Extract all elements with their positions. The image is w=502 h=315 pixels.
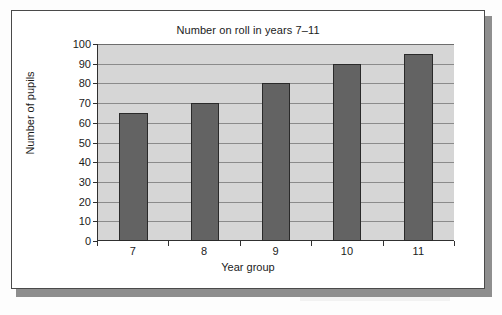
bar[interactable] — [262, 83, 290, 241]
y-tick-label: 20 — [79, 196, 91, 208]
y-tick-label: 70 — [79, 97, 91, 109]
x-tick-mark — [454, 241, 455, 246]
y-tick-mark — [93, 64, 97, 65]
x-tick-label: 10 — [341, 245, 353, 257]
bar-slot — [312, 44, 383, 241]
figure-frame: Number on roll in years 7–11 Number of p… — [11, 10, 485, 289]
y-tick-label: 30 — [79, 176, 91, 188]
plot-area — [97, 44, 454, 241]
y-tick-label: 10 — [79, 215, 91, 227]
y-tick-label: 50 — [79, 137, 91, 149]
y-tick-label: 100 — [73, 38, 91, 50]
x-tick-mark — [383, 241, 384, 246]
y-tick-mark — [93, 44, 97, 45]
y-tick-label: 40 — [79, 156, 91, 168]
y-axis-title: Number of pupils — [24, 53, 36, 173]
bar[interactable] — [404, 54, 432, 241]
y-tick-label: 0 — [85, 235, 91, 247]
y-tick-mark — [93, 182, 97, 183]
y-tick-label: 90 — [79, 58, 91, 70]
x-tick-label: 9 — [272, 245, 278, 257]
bar-slot — [169, 44, 240, 241]
chart-title: Number on roll in years 7–11 — [12, 24, 484, 36]
x-tick-mark — [97, 241, 98, 246]
x-tick-label: 7 — [130, 245, 136, 257]
x-tick-mark — [168, 241, 169, 246]
bar[interactable] — [333, 64, 361, 241]
y-tick-mark — [93, 123, 97, 124]
x-tick-label: 11 — [413, 245, 424, 257]
y-tick-mark — [93, 83, 97, 84]
bar-slot — [98, 44, 169, 241]
plot-wrapper: 0102030405060708090100 7891011 — [97, 44, 454, 275]
scanned-page: Number on roll in years 7–11 Number of p… — [0, 0, 502, 315]
y-tick-mark — [93, 103, 97, 104]
bar[interactable] — [119, 113, 147, 241]
x-tick-label: 8 — [201, 245, 207, 257]
x-tick-mark — [240, 241, 241, 246]
x-tick-mark — [311, 241, 312, 246]
y-tick-mark — [93, 162, 97, 163]
y-tick-mark — [93, 221, 97, 222]
bars-layer — [98, 44, 454, 241]
bar-slot — [383, 44, 454, 241]
bar[interactable] — [191, 103, 219, 241]
bar-slot — [240, 44, 311, 241]
y-tick-mark — [93, 202, 97, 203]
y-tick-label: 80 — [79, 77, 91, 89]
y-tick-label: 60 — [79, 117, 91, 129]
y-tick-mark — [93, 143, 97, 144]
x-axis-title: Year group — [12, 261, 484, 273]
